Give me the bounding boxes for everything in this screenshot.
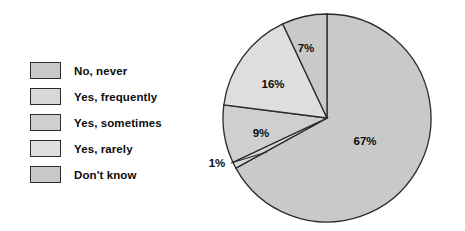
pie-chart-area: 67% 1% 9% 16% 7% xyxy=(205,0,465,231)
pie-value-label-yes-rarely: 16% xyxy=(261,78,284,90)
legend-item-yes-frequently: Yes, frequently xyxy=(30,88,210,105)
chart-legend: No, never Yes, frequently Yes, sometimes… xyxy=(30,62,210,183)
legend-item-no-never: No, never xyxy=(30,62,210,79)
legend-swatch-no-never xyxy=(30,62,61,79)
legend-label-no-never: No, never xyxy=(74,65,127,77)
pie-svg: 67% 1% 9% 16% 7% xyxy=(205,0,465,231)
legend-swatch-yes-frequently xyxy=(30,88,61,105)
pie-value-label-yes-frequently: 1% xyxy=(209,157,226,169)
legend-swatch-yes-rarely xyxy=(30,140,61,157)
legend-item-yes-sometimes: Yes, sometimes xyxy=(30,114,210,131)
pie-slices xyxy=(223,14,431,222)
pie-value-label-dont-know: 7% xyxy=(298,42,315,54)
pie-chart-figure: No, never Yes, frequently Yes, sometimes… xyxy=(0,0,465,231)
legend-swatch-yes-sometimes xyxy=(30,114,61,131)
pie-value-label-yes-sometimes: 9% xyxy=(253,127,270,139)
legend-swatch-dont-know xyxy=(30,166,61,183)
pie-value-label-no-never: 67% xyxy=(353,135,376,147)
legend-item-yes-rarely: Yes, rarely xyxy=(30,140,210,157)
legend-label-dont-know: Don't know xyxy=(74,169,137,181)
legend-label-yes-sometimes: Yes, sometimes xyxy=(74,117,162,129)
legend-label-yes-rarely: Yes, rarely xyxy=(74,143,133,155)
legend-item-dont-know: Don't know xyxy=(30,166,210,183)
legend-label-yes-frequently: Yes, frequently xyxy=(74,91,157,103)
